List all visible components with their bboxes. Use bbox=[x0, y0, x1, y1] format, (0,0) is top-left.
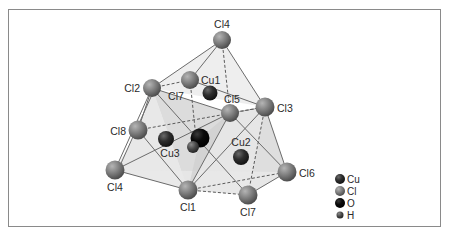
label-cl7-bottom: Cl7 bbox=[240, 206, 256, 218]
label-cl4-low: Cl4 bbox=[107, 181, 123, 193]
label-cl2: Cl2 bbox=[124, 82, 140, 94]
atom-cu3 bbox=[158, 131, 174, 147]
atom-cl1 bbox=[179, 181, 198, 200]
atom-h bbox=[187, 141, 199, 153]
atom-cl8 bbox=[129, 121, 148, 140]
label-cl6: Cl6 bbox=[299, 167, 315, 179]
atom-cu2 bbox=[233, 149, 249, 165]
legend-o-swatch bbox=[335, 198, 345, 208]
atom-cl2 bbox=[143, 79, 161, 97]
atom-cl6 bbox=[278, 163, 297, 182]
label-cu1: Cu1 bbox=[201, 74, 220, 86]
polyhedron-faces bbox=[115, 40, 287, 195]
label-cu2: Cu2 bbox=[231, 136, 250, 148]
atom-cl4-top bbox=[213, 31, 231, 49]
legend: Cu Cl O H bbox=[335, 174, 360, 221]
atom-cl7-bottom bbox=[239, 186, 258, 205]
label-cl3: Cl3 bbox=[277, 102, 293, 114]
label-cl8: Cl8 bbox=[110, 125, 126, 137]
legend-cl-label: Cl bbox=[347, 186, 356, 197]
crystal-structure-diagram: Cl4 Cu1 Cl2 Cl7 Cl5 Cl3 Cl8 Cu3 Cu2 Cl4 … bbox=[0, 0, 449, 235]
legend-h-swatch bbox=[337, 212, 344, 219]
legend-cu-swatch bbox=[335, 174, 345, 184]
atom-cl5 bbox=[221, 104, 239, 122]
legend-o-label: O bbox=[347, 198, 355, 209]
atom-cu1 bbox=[203, 86, 218, 101]
atom-cl4-low bbox=[106, 161, 125, 180]
legend-cl-swatch bbox=[335, 186, 345, 196]
legend-cu-label: Cu bbox=[347, 174, 360, 185]
legend-h-label: H bbox=[347, 210, 354, 221]
label-cu3: Cu3 bbox=[160, 147, 179, 159]
atom-cl7-upper bbox=[181, 71, 199, 89]
atom-cl3 bbox=[256, 98, 275, 117]
label-cl1: Cl1 bbox=[180, 201, 196, 213]
label-cl4-top: Cl4 bbox=[214, 18, 230, 30]
label-cl7-upper: Cl7 bbox=[168, 90, 184, 102]
label-cl5: Cl5 bbox=[224, 93, 240, 105]
